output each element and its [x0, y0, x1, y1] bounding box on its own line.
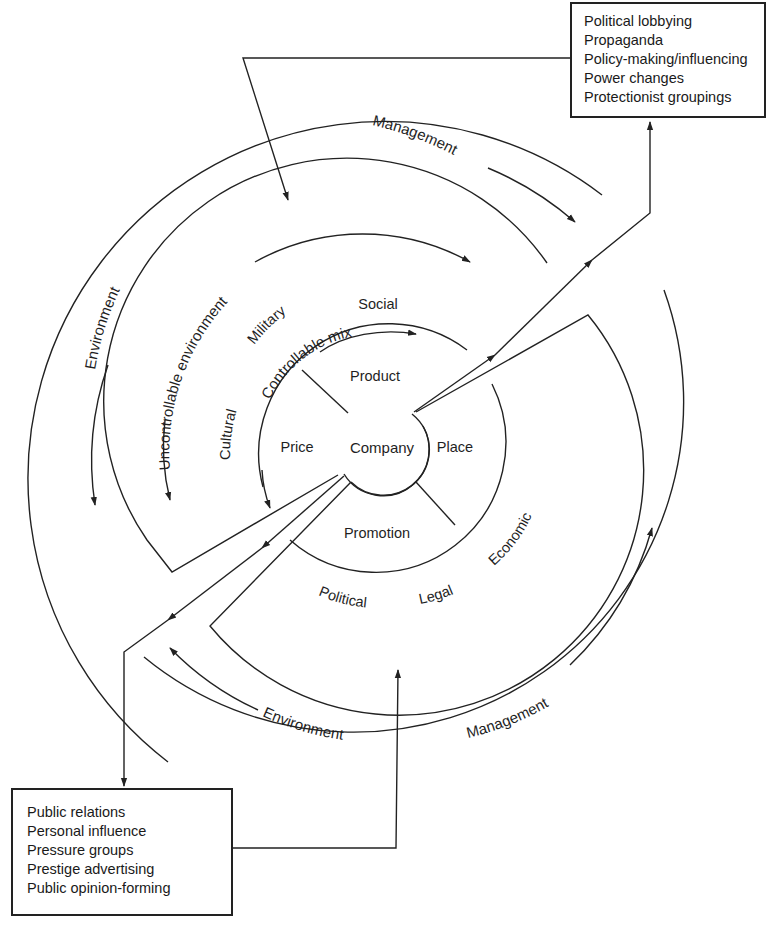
controllable-mix-title: Controllable mix	[258, 323, 354, 402]
outer-arc-upper	[28, 121, 602, 762]
factor-political: Political	[317, 583, 368, 611]
outbound-arrow-icon	[592, 122, 650, 260]
rotation-arrow-icon	[255, 234, 470, 262]
list-item: Public opinion-forming	[27, 879, 231, 898]
feedback-arrow-icon	[233, 670, 398, 848]
factor-social: Social	[358, 296, 398, 312]
list-item: Propaganda	[584, 31, 764, 50]
factor-military: Military	[244, 302, 289, 347]
list-item: Power changes	[584, 69, 764, 88]
list-item: Political lobbying	[584, 12, 764, 31]
list-item: Personal influence	[27, 822, 231, 841]
list-item: Public relations	[27, 803, 231, 822]
label-management-bottom: Management	[465, 693, 552, 741]
rotation-arrow-icon	[262, 470, 270, 508]
factor-cultural: Cultural	[217, 407, 240, 460]
outbound-arrow-icon	[414, 355, 495, 412]
list-item: Policy-making/influencing	[584, 50, 764, 69]
list-item: Protectionist groupings	[584, 88, 764, 107]
label-environment-left: Environment	[81, 283, 123, 370]
inbound-actions-box: Public relations Personal influence Pres…	[11, 788, 233, 916]
divider-line	[302, 370, 348, 413]
list-item: Pressure groups	[27, 841, 231, 860]
outbound-arrow-icon	[168, 548, 262, 620]
label-management-top: Management	[371, 111, 461, 158]
outer-ring: Environment Management Environment Manag…	[28, 111, 684, 762]
outbound-arrow-icon	[124, 620, 168, 786]
divider-line	[416, 482, 455, 525]
segment-promotion: Promotion	[344, 525, 410, 541]
outbound-actions-box: Political lobbying Propaganda Policy-mak…	[570, 2, 766, 118]
outer-arc-lower	[144, 290, 684, 732]
list-item: Prestige advertising	[27, 860, 231, 879]
segment-product: Product	[350, 368, 400, 384]
segment-place: Place	[437, 439, 473, 455]
factor-legal: Legal	[417, 582, 455, 607]
segment-price: Price	[280, 439, 313, 455]
factor-economic: Economic	[485, 510, 534, 569]
label-environment-bottom: Environment	[261, 703, 346, 743]
rotation-arrow-icon	[570, 528, 652, 665]
company-label: Company	[350, 439, 415, 456]
